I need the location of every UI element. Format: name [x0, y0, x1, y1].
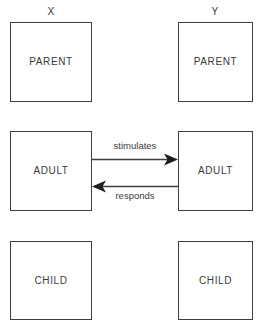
ego-state-box-x-parent: PARENT — [10, 22, 92, 102]
ego-state-label: ADULT — [33, 165, 68, 177]
ego-state-label: PARENT — [194, 56, 237, 68]
column-header-y: Y — [195, 6, 235, 18]
ego-state-label: CHILD — [199, 275, 232, 287]
column-header-x: X — [31, 6, 71, 18]
transaction-label-responds: responds — [103, 190, 167, 201]
ego-state-diagram: X Y PARENT ADULT CHILD PARENT ADULT CHIL… — [0, 0, 262, 332]
stimulates-arrow-head — [164, 154, 178, 166]
stimulates-arrow — [92, 154, 178, 166]
ego-state-box-y-child: CHILD — [178, 241, 253, 320]
ego-state-box-x-child: CHILD — [10, 241, 92, 320]
ego-state-box-y-parent: PARENT — [178, 22, 253, 102]
ego-state-label: CHILD — [34, 275, 67, 287]
ego-state-box-y-adult: ADULT — [178, 131, 253, 211]
ego-state-label: PARENT — [29, 56, 72, 68]
ego-state-label: ADULT — [198, 165, 233, 177]
transaction-label-stimulates: stimulates — [99, 140, 171, 151]
ego-state-box-x-adult: ADULT — [10, 131, 92, 211]
